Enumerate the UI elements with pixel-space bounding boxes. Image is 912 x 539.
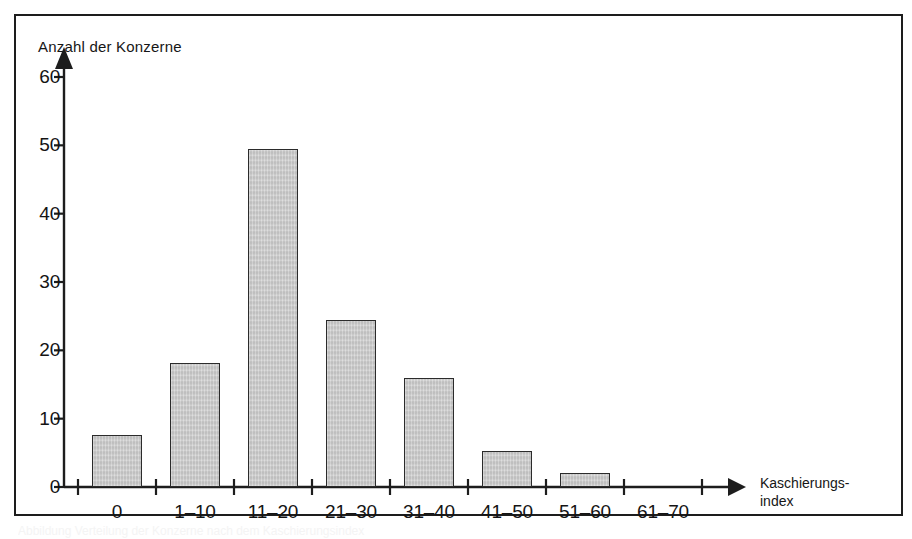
y-tick-label: 10 (26, 408, 60, 430)
x-tick-label: 31–40 (403, 501, 455, 523)
x-tick-label: 51–60 (559, 501, 611, 523)
y-tick-label: 40 (26, 203, 60, 225)
bar (482, 451, 532, 487)
y-tick-label: 20 (26, 339, 60, 361)
y-tick-label: 30 (26, 271, 60, 293)
figure-root: Anzahl der Konzerne 0102030405060 01–101… (0, 0, 912, 539)
x-tick-label: 61–70 (637, 501, 689, 523)
chart-plot-area: Anzahl der Konzerne 0102030405060 01–101… (16, 16, 905, 518)
chart-axes (16, 16, 905, 518)
bar (170, 363, 220, 487)
bar (560, 473, 610, 487)
x-tick-label: 0 (112, 501, 122, 523)
y-tick-label: 60 (26, 66, 60, 88)
bar (326, 320, 376, 487)
x-axis-title: Kaschierungs- index (760, 475, 850, 510)
x-axis-title-line2: index (760, 493, 850, 511)
x-axis-title-line1: Kaschierungs- (760, 475, 850, 493)
bar (248, 149, 298, 487)
x-tick-label: 1–10 (174, 501, 215, 523)
figure-caption: Abbildung Verteilung der Konzerne nach d… (18, 524, 718, 538)
x-tick-label: 21–30 (325, 501, 377, 523)
bar (404, 378, 454, 487)
y-tick-label: 50 (26, 134, 60, 156)
x-tick-label: 41–50 (481, 501, 533, 523)
x-tick-label: 11–20 (248, 501, 298, 523)
bar (92, 435, 142, 487)
figure-frame: Anzahl der Konzerne 0102030405060 01–101… (14, 14, 903, 516)
y-tick-label: 0 (26, 476, 60, 498)
y-axis-title: Anzahl der Konzerne (38, 38, 182, 55)
